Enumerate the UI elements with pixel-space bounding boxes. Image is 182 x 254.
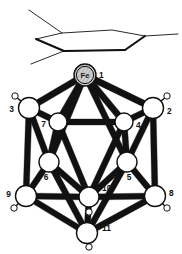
vertex-sphere-8 — [145, 186, 166, 207]
arene-substituent-line-0 — [29, 10, 62, 33]
bond-7-4 — [58, 119, 124, 125]
hydrogen-atom-9 — [11, 205, 17, 211]
hydrogen-atom-2 — [164, 93, 170, 99]
arene-bold-edge-1 — [64, 50, 125, 51]
hydrogen-atom-11 — [86, 244, 92, 250]
vertex-sphere-5 — [117, 152, 137, 172]
bond-2-8 — [150, 108, 158, 196]
vertex-index-label-1: 1 — [99, 70, 104, 80]
metal-symbol-label: Fe — [81, 71, 90, 80]
vertex-sphere-6 — [39, 152, 59, 172]
vertex-index-label-6: 6 — [44, 172, 49, 182]
vertex-sphere-2 — [143, 98, 164, 119]
vertex-sphere-10 — [79, 187, 99, 207]
vertex-index-label-10: 10 — [102, 183, 112, 193]
hydrogen-atom-10 — [86, 209, 92, 215]
molecular-structure-figure: Fe1327465910811 — [0, 0, 182, 254]
vertex-index-label-3: 3 — [9, 104, 14, 114]
vertex-index-label-2: 2 — [167, 106, 172, 116]
vertex-index-label-4: 4 — [136, 120, 141, 130]
arene-substituent-line-1 — [31, 51, 64, 64]
vertex-sphere-11 — [77, 223, 98, 244]
structure-canvas: Fe1327465910811 — [0, 0, 182, 254]
vertex-sphere-7 — [49, 113, 67, 131]
arene-substituent-line-2 — [145, 34, 178, 36]
arene-bold-edge-0 — [36, 39, 64, 51]
bond-3-9 — [23, 108, 32, 196]
vertex-index-label-5: 5 — [127, 172, 132, 182]
vertex-index-label-9: 9 — [6, 189, 11, 199]
vertex-index-label-7: 7 — [41, 119, 46, 129]
vertex-index-label-11: 11 — [102, 223, 111, 233]
vertex-sphere-9 — [16, 186, 37, 207]
hydrogen-atom-3 — [12, 93, 18, 99]
vertex-sphere-3 — [19, 98, 40, 119]
arene-bold-edge-2 — [125, 36, 145, 50]
vertex-index-label-8: 8 — [169, 188, 174, 198]
hydrogen-atom-8 — [164, 205, 170, 211]
vertex-sphere-4 — [115, 113, 133, 131]
arene-ligand-group — [29, 10, 178, 64]
